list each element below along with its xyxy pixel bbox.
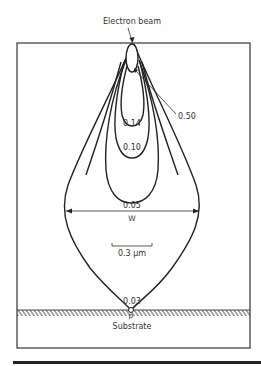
scale-bar [112, 243, 152, 246]
label-0.03: 0.03 [123, 297, 141, 306]
beam-arrow-head-icon [130, 37, 135, 43]
label-0.14: 0.14 [123, 119, 141, 128]
point-p-label: p [129, 311, 134, 320]
scale-bar-label: 0.3 μm [118, 249, 146, 258]
substrate-label: Substrate [113, 322, 152, 331]
contour-flank-right [142, 62, 178, 175]
contour-flank-left [86, 62, 121, 175]
label-0.10: 0.10 [123, 143, 141, 152]
label-0.50: 0.50 [178, 112, 196, 121]
electron-beam-label: Electron beam [103, 17, 161, 26]
width-arrow-left-icon [66, 209, 72, 214]
label-0.05: 0.05 [123, 201, 141, 210]
contour-0.50 [126, 44, 138, 72]
bottom-rule [13, 361, 261, 364]
contour-0.03 [64, 44, 199, 310]
energy-contour-diagram: Electron beam 0.50 0.14 0.10 0.05 W 0.3 … [0, 0, 261, 366]
contour-0.14 [121, 66, 144, 126]
width-label: W [128, 214, 136, 223]
